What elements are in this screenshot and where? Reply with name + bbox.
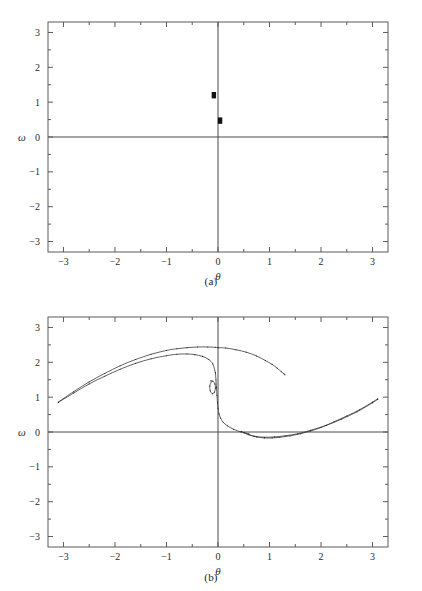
y-tick-label: −3 (29, 236, 40, 247)
trajectory-dot (217, 347, 218, 348)
trajectory-dot (254, 436, 255, 437)
y-tick-label: 0 (35, 427, 40, 438)
trajectory-dot (73, 392, 74, 393)
trajectory-dot (89, 381, 90, 382)
y-tick-label: −2 (29, 496, 40, 507)
x-tick-label: 1 (267, 551, 272, 562)
panel-a-caption: (a) (0, 275, 422, 287)
y-tick-label: 1 (35, 97, 40, 108)
curve-upper-left-branch-duplicate (58, 347, 218, 402)
trajectory-dot (135, 359, 136, 360)
y-tick-label: 3 (35, 322, 40, 333)
data-point (218, 117, 222, 123)
trajectory-dot (272, 364, 273, 365)
trajectory-dot (216, 387, 217, 388)
trajectory-dot (104, 373, 105, 374)
x-tick-label: −2 (110, 256, 121, 267)
trajectory-dot (166, 350, 167, 351)
trajectory-dot (297, 433, 298, 434)
trajectory-dot (377, 399, 378, 400)
trajectory-dot (281, 371, 282, 372)
trajectory-dot (357, 411, 358, 412)
trajectory-dot (216, 395, 217, 396)
trajectory-dot (235, 349, 236, 350)
trajectory-dot (210, 390, 211, 391)
x-tick-label: −2 (110, 551, 121, 562)
trajectory-dot (223, 422, 224, 423)
trajectory-dot (217, 408, 218, 409)
trajectory-dot (166, 355, 167, 356)
trajectory-dot (284, 435, 285, 436)
trajectory-dot (210, 380, 211, 381)
x-tick-label: −3 (58, 551, 69, 562)
trajectory-dot (176, 354, 177, 355)
trajectory-dot (283, 373, 284, 374)
trajectory-dot (341, 419, 342, 420)
x-tick-label: −3 (58, 256, 69, 267)
trajectory-dot (241, 431, 242, 432)
y-tick-label: −2 (29, 201, 40, 212)
trajectory-dot (120, 365, 121, 366)
trajectory-dot (284, 374, 285, 375)
trajectory-dot (220, 418, 221, 419)
trajectory-dot (233, 429, 234, 430)
trajectory-dot (211, 381, 212, 382)
trajectory-dot (209, 385, 210, 386)
trajectory-dot (212, 364, 213, 365)
trajectory-dot (265, 360, 266, 361)
trajectory-dot (73, 391, 74, 392)
trajectory-dot (212, 393, 213, 394)
x-tick-label: 2 (319, 256, 324, 267)
y-tick-label: 1 (35, 392, 40, 403)
trajectory-dot (215, 379, 216, 380)
trajectory-dot (372, 402, 373, 403)
trajectory-dot (135, 363, 136, 364)
y-tick-label: −1 (29, 461, 40, 472)
trajectory-dot (202, 356, 203, 357)
series-poincare-points (212, 92, 223, 124)
figure-container: −3−2−10123−3−2−10123θω (a) −3−2−10123−3−… (0, 0, 422, 591)
x-tick-label: 0 (216, 256, 221, 267)
y-tick-label: 2 (35, 357, 40, 368)
y-tick-label: 0 (35, 132, 40, 143)
trajectory-dot (104, 376, 105, 377)
trajectory-dot (217, 402, 218, 403)
y-axis-title: ω (18, 426, 26, 438)
trajectory-dot (310, 430, 311, 431)
curve-upper-left-branch (58, 354, 215, 402)
x-tick-label: 1 (267, 256, 272, 267)
x-tick-label: −1 (161, 256, 172, 267)
phase-plot-a: −3−2−10123−3−2−10123θω (0, 0, 422, 296)
panel-b: −3−2−10123−3−2−10123θω (0, 295, 422, 591)
trajectory-dot (212, 381, 213, 382)
trajectory-dot (150, 358, 151, 359)
trajectory-dot (120, 369, 121, 370)
trajectory-dot (207, 346, 208, 347)
trajectory-dot (274, 436, 275, 437)
trajectory-dot (326, 425, 327, 426)
x-tick-label: 3 (370, 256, 375, 267)
data-point (212, 92, 216, 98)
x-tick-label: −1 (161, 551, 172, 562)
trajectory-dot (218, 413, 219, 414)
curve-upper-right-branch (218, 348, 285, 375)
panel-b-caption: (b) (0, 571, 422, 583)
x-tick-label: 0 (216, 551, 221, 562)
x-tick-label: 2 (319, 551, 324, 562)
trajectory-dot (208, 359, 209, 360)
phase-plot-b: −3−2−10123−3−2−10123θω (0, 295, 422, 591)
trajectory-dot (246, 352, 247, 353)
trajectory-dot (187, 347, 188, 348)
trajectory-dot (272, 437, 273, 438)
trajectory-dot (243, 432, 244, 433)
trajectory-dot (215, 347, 216, 348)
x-tick-label: 3 (370, 551, 375, 562)
curve-central-vertical-drop (215, 373, 248, 434)
trajectory-dot (176, 348, 177, 349)
trajectory-dot (225, 347, 226, 348)
trajectory-dot (264, 437, 265, 438)
trajectory-dot (215, 388, 216, 389)
y-tick-label: 2 (35, 62, 40, 73)
trajectory-dot (89, 383, 90, 384)
y-axis-title: ω (18, 131, 26, 143)
